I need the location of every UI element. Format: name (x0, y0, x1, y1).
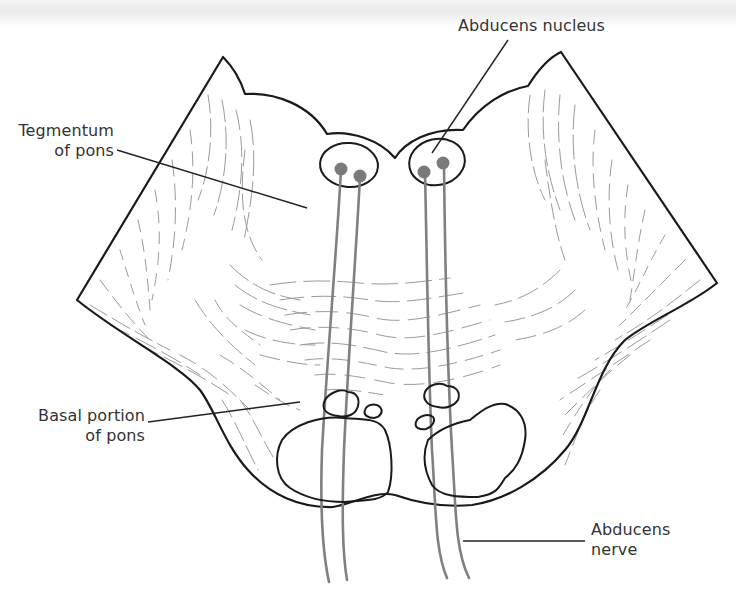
left-abducens-nucleus-outline (319, 141, 380, 189)
label-abducens-nerve: Abducens nerve (591, 520, 670, 560)
label-tegmentum-line1: Tegmentum (8, 121, 114, 141)
basal-pons-structures (277, 384, 525, 502)
leader-tegmentum (117, 150, 307, 208)
left-large-blob (277, 417, 392, 502)
label-abducens-nerve-line1: Abducens (591, 520, 670, 540)
label-basal-portion-line1: Basal portion (10, 406, 145, 426)
label-basal-portion-of-pons: Basal portion of pons (10, 406, 145, 446)
label-tegmentum-of-pons: Tegmentum of pons (8, 121, 114, 161)
label-abducens-nerve-line2: nerve (591, 540, 670, 560)
left-tiny-blob (365, 405, 382, 418)
label-tegmentum-line2: of pons (8, 141, 114, 161)
label-abducens-nucleus: Abducens nucleus (458, 16, 605, 36)
leader-abducens-nucleus (432, 40, 508, 153)
label-basal-portion-line2: of pons (10, 426, 145, 446)
right-large-blob (425, 404, 526, 497)
left-small-blob (323, 390, 358, 416)
abducens-nucleus-dots (335, 157, 450, 183)
fiber-texture (90, 90, 700, 470)
label-abducens-nucleus-text: Abducens nucleus (458, 16, 605, 36)
pons-outline (77, 52, 717, 507)
abducens-nerve-fibers (321, 163, 469, 582)
leader-basal-portion (148, 402, 300, 422)
pons-cross-section-diagram (0, 0, 736, 599)
